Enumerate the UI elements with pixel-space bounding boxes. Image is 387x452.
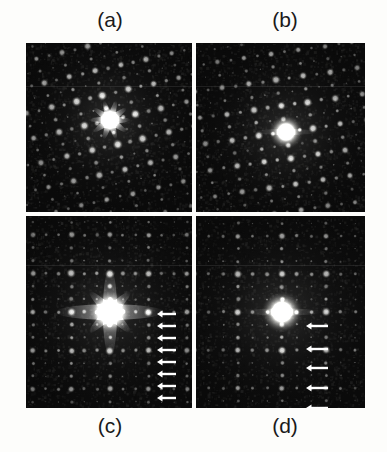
figure-root: (a) (b) (c) (d) xyxy=(0,0,387,452)
diffraction-panel-d xyxy=(196,216,365,408)
panel-label-d: (d) xyxy=(255,414,315,438)
diffraction-panel-a xyxy=(26,43,192,212)
panel-label-b: (b) xyxy=(255,8,315,32)
panel-label-a: (a) xyxy=(80,8,140,32)
diffraction-canvas-b xyxy=(196,43,365,212)
diffraction-canvas-a xyxy=(26,43,192,212)
diffraction-canvas-d xyxy=(196,216,365,408)
diffraction-panel-c xyxy=(26,216,192,408)
diffraction-panel-b xyxy=(196,43,365,212)
diffraction-canvas-c xyxy=(26,216,192,408)
panel-label-c: (c) xyxy=(80,414,140,438)
